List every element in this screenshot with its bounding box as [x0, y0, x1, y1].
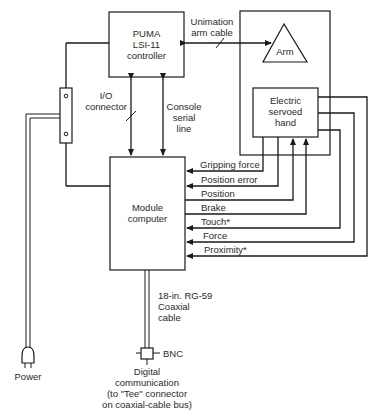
arm-cable-label-line2: arm cable — [186, 27, 238, 38]
bnc-label: BNC — [163, 348, 183, 359]
signal-label-proximity: Proximity* — [204, 244, 247, 255]
console-label-line1: Console — [166, 101, 202, 112]
controller-label-line3: controller — [109, 50, 184, 61]
console-line-label: Console serial line — [166, 101, 202, 134]
hand-label: Electric servoed hand — [253, 95, 318, 128]
controller-label-line2: LSI-11 — [109, 39, 184, 50]
power-label: Power — [8, 371, 48, 382]
power-cord-outer — [26, 114, 60, 350]
signal-label-position-error: Position error — [201, 174, 258, 185]
io-connector-label-line1: I/O — [84, 90, 128, 101]
arm-cable-label-line1: Unimation — [186, 16, 238, 27]
io-connector-label: I/O connector — [84, 90, 128, 112]
coax-label: 18-in. RG-59 Coaxial cable — [158, 290, 212, 323]
digital-comm-line1: Digital — [97, 366, 197, 377]
hand-label-line2: servoed — [253, 106, 318, 117]
console-label-line3: line — [166, 123, 202, 134]
signal-label-touch: Touch* — [201, 216, 230, 227]
hand-label-line3: hand — [253, 117, 318, 128]
controller-label-line1: PUMA — [109, 28, 184, 39]
controller-label: PUMA LSI-11 controller — [109, 28, 184, 61]
hand-label-line1: Electric — [253, 95, 318, 106]
power-cord-inner — [30, 118, 60, 350]
io-connector-label-line2: connector — [84, 101, 128, 112]
coax-label-line2: Coaxial — [158, 301, 212, 312]
signal-label-gripping-force: Gripping force — [200, 159, 260, 170]
console-label-line2: serial — [166, 112, 202, 123]
arm-cable-label: Unimation arm cable — [186, 16, 238, 38]
digital-comm-line4: on coaxial-cable bus) — [97, 399, 197, 410]
arm-label: Arm — [263, 46, 307, 57]
digital-comm-line2: communication — [97, 377, 197, 388]
digital-comm-line3: (to "Tee" connector — [97, 388, 197, 399]
coax-label-line3: cable — [158, 312, 212, 323]
module-computer-label: Module computer — [110, 202, 185, 224]
digital-comm-label: Digital communication (to "Tee" connecto… — [97, 366, 197, 410]
module-label-line2: computer — [110, 213, 185, 224]
bnc-connector-icon — [141, 348, 153, 359]
signal-label-brake: Brake — [201, 202, 226, 213]
power-plug-icon — [22, 347, 34, 363]
signal-label-force: Force — [203, 230, 227, 241]
module-label-line1: Module — [110, 202, 185, 213]
coax-label-line1: 18-in. RG-59 — [158, 290, 212, 301]
system-diagram — [0, 0, 383, 420]
signal-label-position: Position — [201, 188, 235, 199]
terminal-block — [60, 88, 72, 143]
